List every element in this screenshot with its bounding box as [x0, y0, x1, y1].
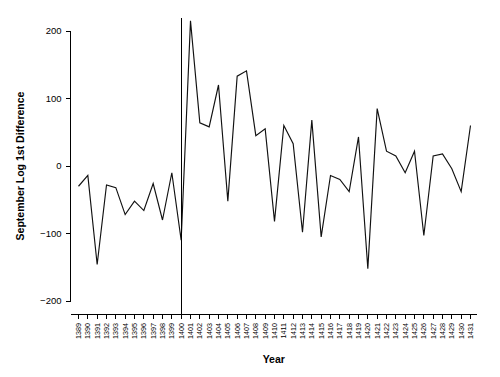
- x-tick-label: 1411: [279, 323, 288, 338]
- x-tick-label: 1406: [233, 323, 242, 339]
- x-tick-label: 1403: [205, 323, 214, 339]
- x-tick-label: 1393: [111, 323, 120, 339]
- x-tick-label: 1389: [74, 323, 83, 339]
- x-tick-label: 1390: [83, 323, 92, 339]
- x-tick-label: 1395: [130, 323, 139, 339]
- x-tick-label: 1408: [251, 323, 260, 339]
- series-line-september-log-1st-difference: [79, 21, 471, 269]
- x-tick-label: 1404: [214, 323, 223, 339]
- x-tick-label: 1392: [102, 323, 111, 339]
- x-tick-group: 1389139013911392139313941395139613971398…: [74, 315, 475, 340]
- x-tick-label: 1397: [149, 323, 158, 339]
- x-tick-label: 1421: [373, 323, 382, 339]
- x-tick-label: 1409: [261, 323, 270, 339]
- x-tick-label: 1416: [326, 323, 335, 339]
- x-tick-label: 1423: [391, 323, 400, 339]
- x-tick-label: 1429: [447, 323, 456, 339]
- x-axis: 1389139013911392139313941395139613971398…: [71, 315, 478, 340]
- x-tick-label: 1396: [139, 323, 148, 339]
- x-tick-label: 1431: [466, 323, 475, 339]
- x-tick-label: 1394: [121, 323, 130, 339]
- y-tick-label: 100: [46, 93, 62, 104]
- x-tick-label: 1402: [195, 323, 204, 339]
- x-tick-label: 1407: [242, 323, 251, 339]
- x-tick-label: 1424: [401, 323, 410, 339]
- y-tick-label: 200: [46, 25, 62, 36]
- x-tick-label: 1400: [177, 323, 186, 339]
- x-tick-label: 1399: [167, 323, 176, 339]
- x-tick-label: 1413: [298, 323, 307, 339]
- x-tick-label: 1414: [307, 323, 316, 339]
- y-tick-label: −200: [40, 295, 61, 306]
- y-tick-label: 0: [56, 160, 61, 171]
- x-tick-label: 1425: [410, 323, 419, 339]
- data-series-group: [79, 21, 471, 269]
- x-tick-label: 1418: [345, 323, 354, 339]
- x-tick-label: 1391: [93, 323, 102, 339]
- chart-container: −200−1000100200 138913901391139213931394…: [0, 0, 500, 377]
- x-tick-label: 1412: [289, 323, 298, 339]
- x-tick-label: 1398: [158, 323, 167, 339]
- y-axis-title: September Log 1st Difference: [14, 91, 26, 240]
- x-tick-label: 1422: [382, 323, 391, 339]
- x-tick-label: 1419: [354, 323, 363, 339]
- x-tick-label: 1427: [429, 323, 438, 339]
- x-tick-label: 1401: [186, 323, 195, 339]
- x-tick-label: 1415: [317, 323, 326, 339]
- x-tick-label: 1428: [438, 323, 447, 339]
- x-tick-label: 1426: [419, 323, 428, 339]
- x-tick-label: 1420: [363, 323, 372, 339]
- x-tick-label: 1417: [335, 323, 344, 339]
- x-tick-label: 1430: [457, 323, 466, 339]
- line-chart-plot: −200−1000100200 138913901391139213931394…: [0, 0, 500, 377]
- y-tick-group: −200−1000100200: [40, 25, 70, 306]
- y-axis: −200−1000100200: [40, 25, 70, 306]
- x-axis-title: Year: [263, 353, 285, 365]
- y-tick-label: −100: [40, 228, 61, 239]
- x-tick-label: 1405: [223, 323, 232, 339]
- x-tick-label: 1410: [270, 323, 279, 339]
